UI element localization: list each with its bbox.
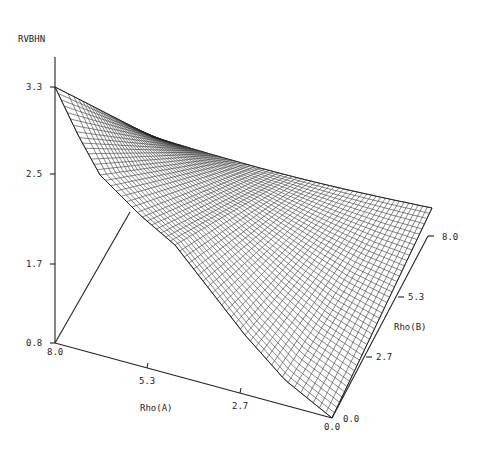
surface-plot: RVBHN 3.3 2.5 1.7 0.8 8.0 5.3 2.7 0.0 Rh… <box>0 0 481 451</box>
rho-a-axis-line <box>55 343 332 418</box>
mesh-lines <box>55 87 432 418</box>
labels: RVBHN 3.3 2.5 1.7 0.8 8.0 5.3 2.7 0.0 Rh… <box>18 34 458 432</box>
x-tick <box>147 363 148 368</box>
x-axis-label: Rho(A) <box>140 403 173 413</box>
z-tick-label: 3.3 <box>26 82 42 92</box>
surface-mesh <box>55 87 432 418</box>
x-tick-label: 8.0 <box>47 347 63 357</box>
x-tick <box>240 388 241 393</box>
z-tick-label: 1.7 <box>26 259 42 269</box>
y-tick-label: 0.0 <box>343 414 359 424</box>
y-axis-label: Rho(B) <box>394 322 427 332</box>
y-tick-label: 8.0 <box>442 232 458 242</box>
y-tick-label: 5.3 <box>408 292 424 302</box>
z-axis-label: RVBHN <box>18 34 45 44</box>
z-tick-label: 0.8 <box>26 338 42 348</box>
axes <box>50 57 434 418</box>
x-tick-label: 2.7 <box>232 401 248 411</box>
back-axis-line <box>55 212 130 343</box>
x-tick-label: 0.0 <box>324 422 340 432</box>
z-tick-label: 2.5 <box>26 169 42 179</box>
x-tick-label: 5.3 <box>139 376 155 386</box>
y-tick-label: 2.7 <box>376 352 392 362</box>
